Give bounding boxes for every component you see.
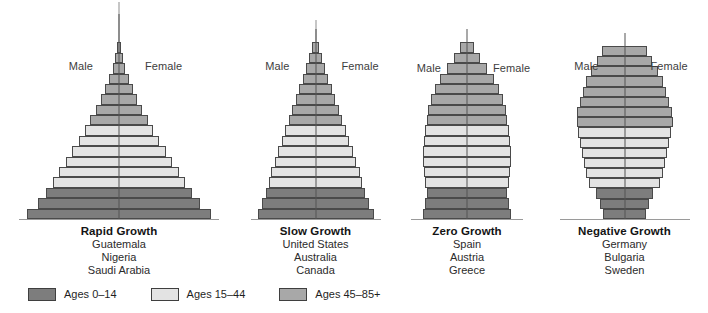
legend-label: Ages 45–85+ bbox=[315, 288, 380, 300]
panel-country: Spain bbox=[393, 238, 541, 251]
pyramid-panels: MaleFemaleRapid GrowthGuatemalaNigeriaSa… bbox=[0, 0, 708, 275]
pyramid-plot: MaleFemale bbox=[238, 0, 393, 222]
panel-country: Nigeria bbox=[0, 251, 238, 264]
pyramid-plot: MaleFemale bbox=[541, 0, 708, 222]
panel-country: Bulgaria bbox=[541, 251, 708, 264]
panel-country: Greece bbox=[393, 264, 541, 277]
panel-caption: Negative GrowthGermanyBulgariaSweden bbox=[541, 224, 708, 277]
sex-divider-line bbox=[624, 33, 625, 219]
panel-title: Zero Growth bbox=[393, 224, 541, 238]
panel-country: Germany bbox=[541, 238, 708, 251]
pyramid-panel-negative-growth: MaleFemaleNegative GrowthGermanyBulgaria… bbox=[541, 0, 708, 275]
population-pyramid-figure: MaleFemaleRapid GrowthGuatemalaNigeriaSa… bbox=[0, 0, 708, 313]
panel-caption: Zero GrowthSpainAustriaGreece bbox=[393, 224, 541, 277]
panel-title: Slow Growth bbox=[238, 224, 393, 238]
pyramid-panel-rapid-growth: MaleFemaleRapid GrowthGuatemalaNigeriaSa… bbox=[0, 0, 238, 275]
legend: Ages 0–14Ages 15–44Ages 45–85+ bbox=[0, 279, 708, 309]
pyramid-plot: MaleFemale bbox=[393, 0, 541, 222]
panel-country: Austria bbox=[393, 251, 541, 264]
panel-caption: Rapid GrowthGuatemalaNigeriaSaudi Arabia bbox=[0, 224, 238, 277]
pyramid-plot: MaleFemale bbox=[0, 0, 238, 222]
legend-item: Ages 0–14 bbox=[28, 288, 117, 301]
panel-country: Sweden bbox=[541, 264, 708, 277]
sex-divider-line bbox=[467, 29, 468, 219]
panel-country: Saudi Arabia bbox=[0, 264, 238, 277]
pyramid-panel-slow-growth: MaleFemaleSlow GrowthUnited StatesAustra… bbox=[238, 0, 393, 275]
pyramid-panel-zero-growth: MaleFemaleZero GrowthSpainAustriaGreece bbox=[393, 0, 541, 275]
panel-country: Australia bbox=[238, 251, 393, 264]
panel-country: Guatemala bbox=[0, 238, 238, 251]
panel-country: United States bbox=[238, 238, 393, 251]
sex-divider-line bbox=[315, 29, 316, 219]
legend-swatch bbox=[151, 288, 179, 301]
legend-swatch bbox=[279, 288, 307, 301]
panel-title: Rapid Growth bbox=[0, 224, 238, 238]
panel-title: Negative Growth bbox=[541, 224, 708, 238]
legend-label: Ages 0–14 bbox=[64, 288, 117, 300]
panel-country: Canada bbox=[238, 264, 393, 277]
panel-caption: Slow GrowthUnited StatesAustraliaCanada bbox=[238, 224, 393, 277]
sex-divider-line bbox=[119, 14, 120, 219]
legend-swatch bbox=[28, 288, 56, 301]
legend-label: Ages 15–44 bbox=[187, 288, 246, 300]
legend-item: Ages 45–85+ bbox=[279, 288, 380, 301]
legend-item: Ages 15–44 bbox=[151, 288, 246, 301]
